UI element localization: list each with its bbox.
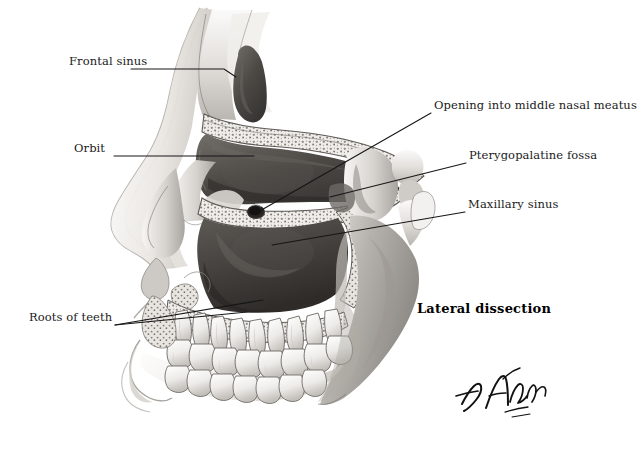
label-roots-of-teeth: Roots of teeth xyxy=(29,311,112,324)
plate-caption: Lateral dissection xyxy=(417,301,551,316)
tooth-crown xyxy=(302,370,327,397)
netter-signature xyxy=(456,368,546,417)
tooth-crown xyxy=(256,377,282,404)
label-orbit: Orbit xyxy=(74,142,105,155)
tooth-crown xyxy=(187,370,213,397)
pterygopalatine-fossa xyxy=(329,183,355,212)
frontal-bone xyxy=(197,10,272,122)
condylar-process xyxy=(411,192,435,230)
tooth-crown xyxy=(279,375,305,402)
tooth-crown xyxy=(233,376,259,403)
anatomy-plate: Frontal sinus Orbit Roots of teeth Openi… xyxy=(0,0,641,457)
label-frontal-sinus: Frontal sinus xyxy=(69,55,147,68)
label-maxillary-sinus: Maxillary sinus xyxy=(468,198,558,211)
skull-lateral-dissection-illustration xyxy=(0,0,641,457)
label-pterygopalatine-fossa: Pterygopalatine fossa xyxy=(469,149,597,162)
label-opening-into-middle-nasal-meatus: Opening into middle nasal meatus xyxy=(434,99,637,112)
tooth-crown xyxy=(210,374,236,401)
